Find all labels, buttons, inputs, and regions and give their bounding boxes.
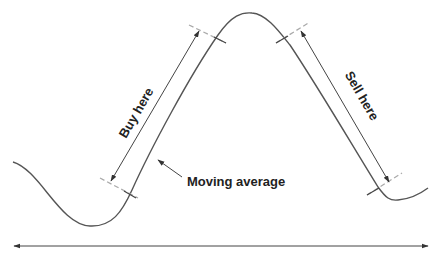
buy-here-label: Buy here	[116, 85, 157, 141]
moving-average-diagram: Buy here Sell here Moving average	[0, 0, 438, 259]
moving-average-label: Moving average	[187, 174, 285, 189]
moving-average-pointer	[158, 160, 182, 177]
moving-average-curve	[13, 13, 428, 226]
sell-here-label: Sell here	[342, 69, 382, 123]
buy-arrow	[111, 31, 199, 181]
sell-dashed-markers	[276, 22, 402, 195]
